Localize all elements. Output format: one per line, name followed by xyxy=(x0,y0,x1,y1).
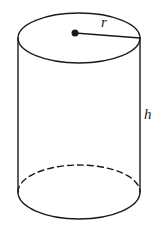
radius-label: r xyxy=(101,15,107,30)
cylinder-drawing xyxy=(0,0,159,230)
height-label: h xyxy=(144,107,152,122)
cylinder-figure: r h xyxy=(0,0,159,230)
radius-line xyxy=(75,33,140,38)
bottom-visible-arc-solid xyxy=(18,192,140,219)
bottom-hidden-arc-dashed xyxy=(18,165,140,192)
center-point-dot xyxy=(72,30,79,37)
top-ellipse xyxy=(18,13,140,63)
